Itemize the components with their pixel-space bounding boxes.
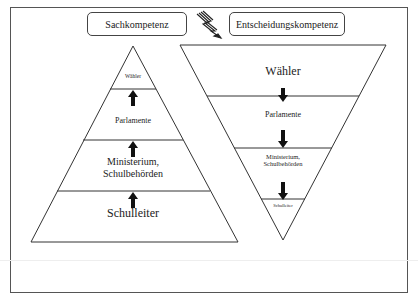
arrow-up-icon — [128, 141, 138, 157]
left-layer-waehler: Wähler — [103, 73, 163, 79]
arrow-down-icon — [278, 182, 288, 200]
left-layer-parlamente: Parlamente — [88, 116, 178, 125]
left-layer-schulleiter: Schulleiter — [68, 207, 198, 221]
arrow-down-icon — [278, 130, 288, 148]
lightning-bolt-icon — [197, 11, 221, 38]
right-layer-schulleiter: Schulleiter — [258, 203, 308, 208]
arrow-up-icon — [128, 90, 138, 106]
right-layer-waehler: Wähler — [233, 65, 333, 79]
arrow-down-icon — [278, 88, 288, 102]
right-layer-ministerium: Ministerium, Schulbehörden — [243, 153, 323, 168]
left-layer-ministerium: Ministerium, Schulbehörden — [78, 156, 188, 179]
diagram-canvas — [0, 0, 418, 304]
right-layer-parlamente: Parlamente — [238, 110, 328, 119]
